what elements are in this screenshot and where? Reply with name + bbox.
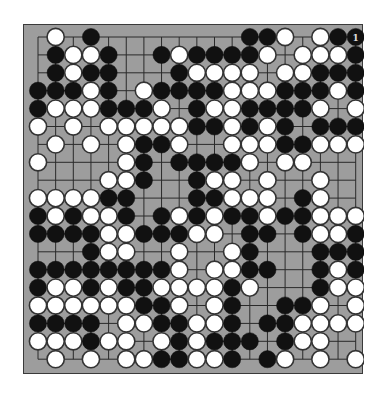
empty-intersection[interactable] <box>135 207 153 225</box>
empty-intersection[interactable] <box>241 314 259 332</box>
empty-intersection[interactable] <box>259 332 277 350</box>
empty-intersection[interactable] <box>206 135 224 153</box>
white-stone <box>277 351 294 368</box>
empty-intersection[interactable] <box>135 332 153 350</box>
empty-intersection[interactable] <box>188 261 206 279</box>
empty-intersection[interactable] <box>64 350 82 368</box>
empty-intersection[interactable] <box>170 28 188 46</box>
empty-intersection[interactable] <box>188 243 206 261</box>
empty-intersection[interactable] <box>29 171 47 189</box>
go-board[interactable]: 1 <box>23 24 363 374</box>
empty-intersection[interactable] <box>29 135 47 153</box>
empty-intersection[interactable] <box>82 118 100 136</box>
empty-intersection[interactable] <box>135 243 153 261</box>
empty-intersection[interactable] <box>29 243 47 261</box>
empty-intersection[interactable] <box>153 153 171 171</box>
empty-intersection[interactable] <box>329 332 347 350</box>
empty-intersection[interactable] <box>329 350 347 368</box>
empty-intersection[interactable] <box>29 46 47 64</box>
empty-intersection[interactable] <box>153 243 171 261</box>
empty-intersection[interactable] <box>347 171 364 189</box>
empty-intersection[interactable] <box>259 64 277 82</box>
empty-intersection[interactable] <box>294 171 312 189</box>
empty-intersection[interactable] <box>294 261 312 279</box>
empty-intersection[interactable] <box>64 135 82 153</box>
empty-intersection[interactable] <box>276 279 294 297</box>
empty-intersection[interactable] <box>64 171 82 189</box>
empty-intersection[interactable] <box>347 332 364 350</box>
empty-intersection[interactable] <box>276 171 294 189</box>
empty-intersection[interactable] <box>82 171 100 189</box>
empty-intersection[interactable] <box>135 64 153 82</box>
empty-intersection[interactable] <box>294 118 312 136</box>
empty-intersection[interactable] <box>329 297 347 315</box>
empty-intersection[interactable] <box>29 350 47 368</box>
empty-intersection[interactable] <box>259 243 277 261</box>
empty-intersection[interactable] <box>294 28 312 46</box>
empty-intersection[interactable] <box>347 189 364 207</box>
empty-intersection[interactable] <box>276 243 294 261</box>
white-stone <box>65 100 82 117</box>
empty-intersection[interactable] <box>241 171 259 189</box>
empty-intersection[interactable] <box>223 225 241 243</box>
black-stone <box>29 207 46 224</box>
empty-intersection[interactable] <box>294 243 312 261</box>
empty-intersection[interactable] <box>47 171 65 189</box>
empty-intersection[interactable] <box>100 28 118 46</box>
empty-intersection[interactable] <box>188 135 206 153</box>
empty-intersection[interactable] <box>47 153 65 171</box>
empty-intersection[interactable] <box>170 100 188 118</box>
empty-intersection[interactable] <box>241 350 259 368</box>
empty-intersection[interactable] <box>135 28 153 46</box>
go-board-grid[interactable]: 1 <box>24 25 364 375</box>
empty-intersection[interactable] <box>276 189 294 207</box>
empty-intersection[interactable] <box>206 28 224 46</box>
empty-intersection[interactable] <box>294 350 312 368</box>
empty-intersection[interactable] <box>259 297 277 315</box>
empty-intersection[interactable] <box>294 279 312 297</box>
empty-intersection[interactable] <box>135 189 153 207</box>
empty-intersection[interactable] <box>188 297 206 315</box>
black-stone <box>347 261 364 278</box>
empty-intersection[interactable] <box>117 46 135 64</box>
empty-intersection[interactable] <box>170 189 188 207</box>
empty-intersection[interactable] <box>188 28 206 46</box>
empty-intersection[interactable] <box>100 135 118 153</box>
empty-intersection[interactable] <box>170 171 188 189</box>
empty-intersection[interactable] <box>100 314 118 332</box>
empty-intersection[interactable] <box>153 189 171 207</box>
empty-intersection[interactable] <box>276 46 294 64</box>
empty-intersection[interactable] <box>100 350 118 368</box>
empty-intersection[interactable] <box>153 64 171 82</box>
empty-intersection[interactable] <box>100 153 118 171</box>
empty-intersection[interactable] <box>329 100 347 118</box>
empty-intersection[interactable] <box>329 171 347 189</box>
empty-intersection[interactable] <box>223 28 241 46</box>
black-stone <box>171 82 188 99</box>
empty-intersection[interactable] <box>135 46 153 64</box>
empty-intersection[interactable] <box>117 82 135 100</box>
empty-intersection[interactable] <box>153 28 171 46</box>
empty-intersection[interactable] <box>29 64 47 82</box>
empty-intersection[interactable] <box>117 28 135 46</box>
empty-intersection[interactable] <box>276 261 294 279</box>
empty-intersection[interactable] <box>47 118 65 136</box>
empty-intersection[interactable] <box>329 153 347 171</box>
empty-intersection[interactable] <box>347 153 364 171</box>
empty-intersection[interactable] <box>241 297 259 315</box>
empty-intersection[interactable] <box>82 153 100 171</box>
empty-intersection[interactable] <box>117 64 135 82</box>
empty-intersection[interactable] <box>64 153 82 171</box>
empty-intersection[interactable] <box>329 189 347 207</box>
empty-intersection[interactable] <box>206 243 224 261</box>
empty-intersection[interactable] <box>312 153 330 171</box>
empty-intersection[interactable] <box>153 171 171 189</box>
empty-intersection[interactable] <box>259 153 277 171</box>
empty-intersection[interactable] <box>276 225 294 243</box>
empty-intersection[interactable] <box>64 28 82 46</box>
empty-intersection[interactable] <box>47 243 65 261</box>
empty-intersection[interactable] <box>259 279 277 297</box>
empty-intersection[interactable] <box>29 28 47 46</box>
white-stone <box>47 297 64 314</box>
empty-intersection[interactable] <box>64 243 82 261</box>
